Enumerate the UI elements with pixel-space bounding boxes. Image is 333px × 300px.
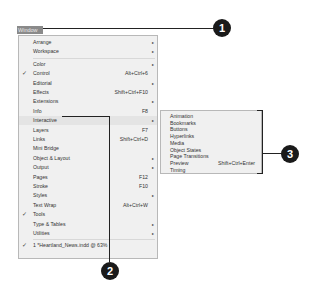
window-menu: Arrange▸Workspace▸Color▸✓ControlAlt+Ctrl…: [18, 35, 158, 259]
menu-item-control[interactable]: ✓ControlAlt+Ctrl+6: [19, 69, 157, 78]
menu-item-extensions[interactable]: Extensions▸: [19, 97, 157, 106]
menu-item-shortcut: F8: [142, 107, 148, 116]
submenu-arrow-icon: ▸: [152, 220, 154, 229]
submenu-arrow-icon: ▸: [152, 163, 154, 172]
menu-item-shortcut: Alt+Ctrl+6: [125, 69, 148, 78]
menu-item-shortcut: F12: [139, 173, 148, 182]
submenu-arrow-icon: ▸: [152, 79, 154, 88]
menu-item-1-heartland-news-indd-63[interactable]: ✓1 *Heartland_News.indd @ 63%: [19, 241, 157, 250]
interactive-submenu: AnimationBookmarksButtonsHyperlinksMedia…: [160, 110, 262, 174]
menu-item-pages[interactable]: PagesF12: [19, 173, 157, 182]
menu-item-output[interactable]: Output▸: [19, 163, 157, 172]
menu-item-editorial[interactable]: Editorial▸: [19, 79, 157, 88]
menu-item-label: Stroke: [33, 182, 48, 191]
menu-item-label: Links: [33, 135, 45, 144]
menu-item-label: Output: [33, 163, 49, 172]
callout-2-leader-h: [62, 116, 110, 117]
menu-item-label: Utilities: [33, 229, 50, 238]
callout-1-badge: 1: [213, 19, 231, 37]
menu-item-mini-bridge[interactable]: Mini Bridge: [19, 144, 157, 153]
menu-item-label: Color: [33, 60, 45, 69]
menu-item-shortcut: Shift+Ctrl+F10: [115, 88, 148, 97]
menu-item-text-wrap[interactable]: Text WrapAlt+Ctrl+W: [19, 201, 157, 210]
menu-item-interactive[interactable]: Interactive▸: [19, 116, 157, 125]
submenu-arrow-icon: ▸: [152, 191, 154, 200]
checkmark-icon: ✓: [22, 210, 27, 219]
menu-item-workspace[interactable]: Workspace▸: [19, 47, 157, 56]
menu-item-tools[interactable]: ✓Tools: [19, 210, 157, 219]
menu-separator: [33, 58, 155, 59]
menu-item-shortcut: Alt+Ctrl+W: [123, 201, 148, 210]
menu-item-label: Mini Bridge: [33, 144, 59, 153]
submenu-arrow-icon: ▸: [152, 229, 154, 238]
checkmark-icon: ✓: [22, 69, 27, 78]
submenu-arrow-icon: ▸: [152, 47, 154, 56]
menu-item-label: 1 *Heartland_News.indd @ 63%: [33, 241, 107, 250]
window-menu-title[interactable]: Window: [17, 26, 43, 34]
menu-item-label: Type & Tables: [33, 220, 66, 229]
submenu-item-label: Timing: [170, 167, 185, 174]
menu-item-label: Arrange: [33, 38, 51, 47]
callout-3-bracket-v: [262, 110, 263, 174]
submenu-arrow-icon: ▸: [152, 154, 154, 163]
menu-item-label: Tools: [33, 210, 45, 219]
menu-item-styles[interactable]: Styles▸: [19, 191, 157, 200]
menu-item-shortcut: F10: [139, 182, 148, 191]
callout-3-leader: [262, 153, 282, 154]
menu-item-label: Pages: [33, 173, 48, 182]
menu-item-label: Extensions: [33, 97, 58, 106]
menu-item-type-tables[interactable]: Type & Tables▸: [19, 220, 157, 229]
menu-item-color[interactable]: Color▸: [19, 60, 157, 69]
menu-item-label: Info: [33, 107, 42, 116]
submenu-item-timing[interactable]: Timing: [161, 167, 261, 174]
menu-item-stroke[interactable]: StrokeF10: [19, 182, 157, 191]
menu-item-label: Workspace: [33, 47, 59, 56]
menu-separator: [33, 239, 155, 240]
menu-item-object-layout[interactable]: Object & Layout▸: [19, 154, 157, 163]
callout-2-leader-v: [109, 116, 110, 262]
menu-item-label: Control: [33, 69, 50, 78]
menu-item-info[interactable]: InfoF8: [19, 107, 157, 116]
menu-item-label: Text Wrap: [33, 201, 56, 210]
callout-1-leader: [43, 28, 215, 29]
menu-item-label: Editorial: [33, 79, 52, 88]
menu-item-label: Effects: [33, 88, 49, 97]
menu-item-shortcut: Shift+Ctrl+D: [120, 135, 148, 144]
menu-item-links[interactable]: LinksShift+Ctrl+D: [19, 135, 157, 144]
menu-item-shortcut: F7: [142, 126, 148, 135]
menu-item-label: Styles: [33, 191, 47, 200]
submenu-arrow-icon: ▸: [152, 60, 154, 69]
submenu-arrow-icon: ▸: [152, 38, 154, 47]
menu-item-label: Layers: [33, 126, 49, 135]
menu-item-label: Interactive: [33, 116, 57, 125]
submenu-arrow-icon: ▸: [152, 116, 154, 125]
menu-item-utilities[interactable]: Utilities▸: [19, 229, 157, 238]
callout-3-bracket-bottom: [257, 173, 263, 174]
menu-item-label: Object & Layout: [33, 154, 70, 163]
checkmark-icon: ✓: [22, 241, 27, 250]
menu-item-effects[interactable]: EffectsShift+Ctrl+F10: [19, 88, 157, 97]
menu-item-layers[interactable]: LayersF7: [19, 126, 157, 135]
callout-3-badge: 3: [281, 145, 299, 163]
submenu-arrow-icon: ▸: [152, 97, 154, 106]
callout-2-badge: 2: [101, 262, 119, 280]
menu-item-arrange[interactable]: Arrange▸: [19, 38, 157, 47]
